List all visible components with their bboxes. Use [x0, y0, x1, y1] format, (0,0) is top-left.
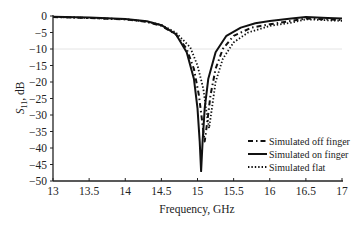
- y-axis-title: S11, dB: [14, 81, 29, 114]
- legend-label: Simulated on finger: [269, 149, 349, 160]
- x-tick-label: 15.5: [224, 185, 244, 197]
- x-tick-label: 13: [47, 185, 59, 197]
- x-axis-title: Frequency, GHz: [159, 203, 234, 216]
- x-tick-label: 14: [120, 185, 132, 197]
- y-tick-label: −25: [29, 93, 47, 105]
- x-tick-label: 15: [192, 185, 204, 197]
- y-tick-label: −30: [29, 109, 47, 121]
- y-tick-label: −5: [35, 27, 47, 39]
- y-tick-label: −10: [29, 43, 47, 55]
- y-tick-label: −35: [29, 126, 47, 138]
- y-axis-ticks: 0−5−10−15−20−25−30−35−40−45−50: [29, 10, 53, 187]
- y-tick-label: −20: [29, 76, 47, 88]
- y-tick-label: −45: [29, 159, 47, 171]
- y-tick-label: −50: [29, 175, 47, 187]
- x-tick-label: 17: [336, 185, 348, 197]
- x-tick-label: 13.5: [79, 185, 99, 197]
- x-tick-label: 16.5: [296, 185, 316, 197]
- y-tick-label: 0: [41, 10, 47, 22]
- y-tick-label: −15: [29, 60, 47, 72]
- legend-label: Simulated flat: [269, 162, 326, 173]
- x-tick-label: 14.5: [151, 185, 171, 197]
- legend: Simulated off fingerSimulated on fingerS…: [248, 136, 351, 173]
- y-tick-label: −40: [29, 142, 47, 154]
- legend-label: Simulated off finger: [269, 136, 351, 147]
- x-tick-label: 16: [264, 185, 276, 197]
- s11-chart: 0−5−10−15−20−25−30−35−40−45−50 1313.5141…: [0, 0, 358, 225]
